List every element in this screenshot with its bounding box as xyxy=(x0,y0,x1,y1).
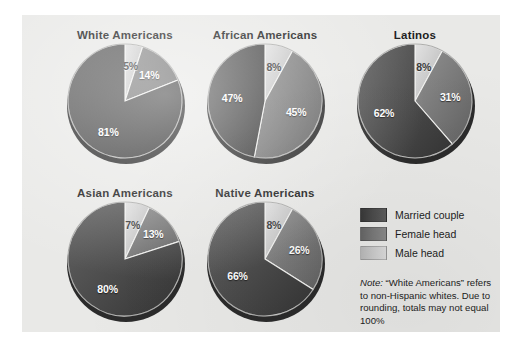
slice-value-male-head: 8% xyxy=(266,61,281,73)
pie-svg xyxy=(206,201,324,319)
legend-label-male: Male head xyxy=(395,247,444,259)
slice-value-married-couple: 66% xyxy=(227,270,247,282)
legend-item-male: Male head xyxy=(360,246,492,260)
slice-value-married-couple: 62% xyxy=(374,107,394,119)
slice-value-female-head: 13% xyxy=(143,228,163,240)
slice-value-female-head: 26% xyxy=(289,244,309,256)
chart-title-asian-americans: Asian Americans xyxy=(50,187,200,199)
pie-area-native-americans: 8%26%66% xyxy=(206,201,324,319)
chart-title-native-americans: Native Americans xyxy=(190,187,340,199)
chart-title-african-americans: African Americans xyxy=(190,29,340,41)
legend: Married coupleFemale headMale head xyxy=(360,208,492,265)
figure-panel: White Americans5%14%81%African Americans… xyxy=(22,15,500,332)
chart-title-white-americans: White Americans xyxy=(50,29,200,41)
chart-title-latinos: Latinos xyxy=(340,29,490,41)
slice-value-male-head: 5% xyxy=(123,60,138,72)
note-label: Note: xyxy=(360,277,383,288)
slice-value-male-head: 8% xyxy=(266,219,281,231)
legend-swatch-married xyxy=(360,208,387,222)
slice-value-married-couple: 80% xyxy=(97,283,117,295)
pie-chart-native-americans: Native Americans8%26%66% xyxy=(190,187,340,319)
legend-item-married: Married couple xyxy=(360,208,492,222)
pie-area-african-americans: 8%45%47% xyxy=(206,43,324,161)
legend-swatch-male xyxy=(360,246,387,260)
pie-area-asian-americans: 7%13%80% xyxy=(66,201,184,319)
figure-note: Note: “White Americans” refers to non-Hi… xyxy=(360,277,500,327)
pie-area-white-americans: 5%14%81% xyxy=(66,43,184,161)
pie-chart-african-americans: African Americans8%45%47% xyxy=(190,29,340,161)
legend-item-female: Female head xyxy=(360,227,492,241)
slice-value-female-head: 45% xyxy=(286,106,306,118)
slice-value-male-head: 7% xyxy=(125,219,140,231)
pie-chart-white-americans: White Americans5%14%81% xyxy=(50,29,200,161)
pie-chart-latinos: Latinos8%31%62% xyxy=(340,29,490,161)
pie-chart-asian-americans: Asian Americans7%13%80% xyxy=(50,187,200,319)
slice-value-female-head: 31% xyxy=(440,91,460,103)
legend-swatch-female xyxy=(360,227,387,241)
pie-area-latinos: 8%31%62% xyxy=(356,43,474,161)
slice-value-female-head: 14% xyxy=(139,69,159,81)
slice-value-married-couple: 47% xyxy=(222,92,242,104)
legend-label-married: Married couple xyxy=(395,209,464,221)
slice-value-male-head: 8% xyxy=(416,61,431,73)
slice-value-married-couple: 81% xyxy=(98,126,118,138)
legend-label-female: Female head xyxy=(395,228,456,240)
